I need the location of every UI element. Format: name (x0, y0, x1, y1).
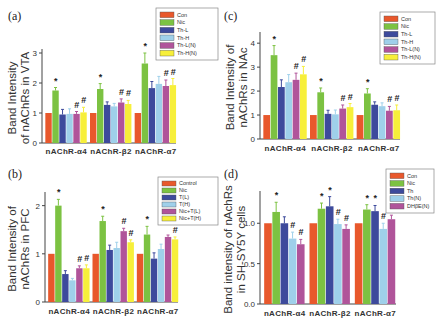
bar (90, 113, 96, 143)
y-axis-label: Band Intensity ofnAChRs in PFC (6, 205, 31, 291)
significance-hash: # (77, 254, 82, 264)
legend-swatch (160, 35, 174, 41)
legend-label: Th-H(N) (401, 54, 421, 60)
legend-label: Th-L (177, 27, 188, 33)
legend-label: Th-H(N) (177, 50, 197, 56)
y-axis-label: Band intensity of nAchRsin SH-SY5Y cells (222, 185, 247, 314)
significance-hash: # (173, 225, 178, 235)
bar (379, 229, 387, 304)
legend-swatch (162, 181, 176, 186)
legend-swatch (384, 54, 398, 60)
bar (121, 231, 127, 302)
significance-hash: # (381, 211, 386, 221)
bar (151, 259, 157, 302)
significance-hash: # (299, 227, 304, 237)
bar (66, 114, 72, 143)
significance-star: * (101, 204, 105, 214)
x-category-label: nAChR-β2 (311, 144, 353, 153)
legend-label: T(L) (179, 194, 189, 200)
legend-label: Nic (177, 19, 185, 25)
bar (97, 89, 103, 143)
bar (271, 55, 278, 139)
y-tick-label: 3 (33, 49, 38, 58)
legend-swatch (384, 39, 398, 45)
legend-swatch (160, 50, 174, 56)
legend-swatch (390, 188, 404, 194)
legend-label: Con (401, 16, 411, 22)
significance-hash: # (344, 213, 349, 223)
significance-hash: # (340, 93, 345, 103)
significance-hash: # (348, 92, 353, 102)
y-tick-label: 2 (33, 79, 38, 88)
bar (318, 209, 326, 304)
bar (48, 254, 54, 302)
significance-star: * (275, 190, 279, 200)
legend-swatch (162, 195, 176, 200)
significance-star: * (328, 185, 332, 195)
significance-star: * (57, 187, 61, 197)
legend-swatch (160, 27, 174, 33)
x-category-label: nAChR-β2 (309, 309, 351, 318)
significance-hash: # (394, 93, 399, 103)
bar (332, 114, 339, 139)
significance-hash: # (336, 207, 341, 217)
legend-label: Th-L(N) (401, 46, 420, 52)
significance-star: * (143, 41, 147, 51)
significance-hash: # (171, 67, 176, 77)
bar (137, 254, 143, 302)
bar (342, 229, 350, 304)
significance-hash: # (128, 228, 133, 238)
chart-svg-c: (c)Band Intensity ofnAChRs in NAc01234*#… (218, 0, 436, 162)
bar (59, 115, 65, 144)
significance-star: * (273, 34, 277, 44)
bar (334, 224, 342, 304)
y-tick-label: 0 (33, 139, 38, 148)
bar (364, 93, 371, 139)
legend-swatch (162, 216, 176, 221)
bar (293, 80, 300, 139)
significance-hash: # (121, 216, 126, 226)
legend-swatch (384, 24, 398, 30)
significance-hash: # (74, 100, 79, 110)
y-tick-label: 0.5 (244, 260, 256, 269)
significance-hash: # (126, 88, 131, 98)
y-tick-label: 2 (251, 87, 256, 96)
significance-hash: # (164, 68, 169, 78)
legend-swatch (390, 173, 404, 179)
bar (386, 111, 393, 139)
legend-swatch (384, 47, 398, 53)
bar (363, 210, 371, 304)
y-tick-label: 2 (36, 202, 41, 211)
bar (144, 235, 150, 302)
bar (278, 87, 285, 139)
bar (317, 92, 324, 139)
legend-label: Th-H (401, 39, 413, 45)
legend-swatch (162, 209, 176, 214)
significance-star: * (374, 193, 378, 203)
bar (83, 268, 89, 302)
panel-label: (b) (8, 167, 22, 181)
x-category-label: nAChR-α7 (135, 147, 177, 156)
bar (310, 115, 317, 139)
legend-swatch (160, 20, 174, 26)
significance-star: * (99, 72, 103, 82)
y-tick-label: 0.0 (244, 300, 256, 309)
bar (104, 105, 110, 143)
y-tick-label: 1.0 (244, 219, 256, 228)
legend-label: Control (179, 180, 197, 186)
legend-swatch (384, 16, 398, 22)
legend-swatch (390, 196, 404, 202)
bar (52, 91, 58, 144)
x-category-label: nAChR-α7 (358, 144, 400, 153)
legend-label: T(H) (179, 201, 190, 207)
significance-hash: # (84, 253, 89, 263)
chart-svg-b: (b)Band Intensity ofnAChRs in PFC012*##n… (0, 163, 220, 326)
bar (371, 105, 378, 139)
y-tick-label: 0 (251, 135, 256, 144)
bar (325, 114, 332, 139)
bar (128, 242, 134, 302)
bar (158, 249, 164, 302)
bar (289, 239, 297, 304)
bar (76, 268, 82, 302)
legend-label: DHβE(N) (407, 203, 430, 209)
